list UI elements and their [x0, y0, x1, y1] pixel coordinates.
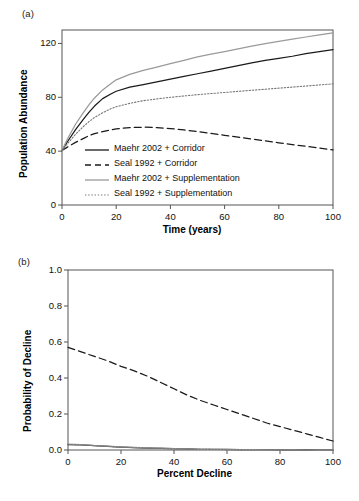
x-tick-label: 60	[207, 456, 247, 467]
y-tick-label: 0.0	[22, 444, 62, 455]
y-tick-label: 80	[16, 91, 56, 102]
legend-key-icon	[84, 187, 110, 199]
x-tick-label: 80	[260, 456, 300, 467]
legend-item: Maehr 2002 + Corridor	[84, 140, 240, 155]
panel-b-x-axis-title: Percent Decline	[0, 468, 359, 479]
series-line	[62, 33, 333, 151]
figure-container: (a) Population Abundance Time (years) Ma…	[0, 0, 359, 501]
y-tick-label: 0.6	[22, 336, 62, 347]
legend-label: Seal 1992 + Corridor	[114, 158, 197, 168]
x-tick-label: 80	[259, 211, 299, 222]
panel-a-y-axis-title: Population Abundance	[18, 69, 29, 178]
legend-label: Seal 1992 + Supplementation	[114, 188, 232, 198]
legend-item: Seal 1992 + Corridor	[84, 155, 240, 170]
legend-item: Maehr 2002 + Supplementation	[84, 170, 240, 185]
legend-key-icon	[84, 157, 110, 169]
panel-b: (b) Probability of Decline Percent Decli…	[0, 250, 359, 501]
y-tick-label: 40	[16, 145, 56, 156]
series-line	[62, 50, 333, 151]
x-tick-label: 20	[96, 211, 136, 222]
x-tick-label: 0	[42, 211, 82, 222]
x-tick-label: 100	[313, 211, 353, 222]
y-tick-label: 0.4	[22, 372, 62, 383]
y-tick-label: 0.2	[22, 408, 62, 419]
legend-key-icon	[84, 142, 110, 154]
series-line	[68, 444, 333, 450]
y-tick-label: 0.8	[22, 300, 62, 311]
x-tick-label: 20	[101, 456, 141, 467]
legend-key-icon	[84, 172, 110, 184]
y-tick-label: 1.0	[22, 264, 62, 275]
legend-item: Seal 1992 + Supplementation	[84, 185, 240, 200]
x-tick-label: 40	[150, 211, 190, 222]
x-tick-label: 60	[205, 211, 245, 222]
legend-label: Maehr 2002 + Supplementation	[114, 173, 240, 183]
legend-label: Maehr 2002 + Corridor	[114, 143, 205, 153]
series-line	[68, 347, 333, 441]
y-tick-label: 120	[16, 37, 56, 48]
panel-a: (a) Population Abundance Time (years) Ma…	[0, 0, 359, 250]
y-tick-label: 0	[16, 199, 56, 210]
x-tick-label: 0	[48, 456, 88, 467]
x-tick-label: 40	[154, 456, 194, 467]
panel-a-x-axis-title: Time (years)	[0, 224, 359, 235]
panel-a-legend: Maehr 2002 + CorridorSeal 1992 + Corrido…	[84, 140, 240, 200]
x-tick-label: 100	[313, 456, 353, 467]
